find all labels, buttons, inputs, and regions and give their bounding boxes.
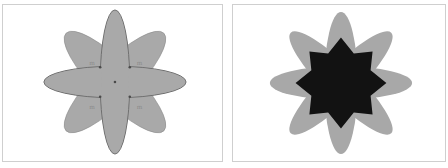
right-panel <box>232 4 446 162</box>
petal-label: m <box>137 60 143 66</box>
center-point <box>114 81 117 84</box>
flower-outline-diagram: m m m m <box>3 5 222 161</box>
anchor-point <box>99 96 102 99</box>
flower-star-diagram <box>233 5 445 161</box>
petal-label: m <box>137 104 143 110</box>
anchor-point <box>99 66 102 69</box>
anchor-point <box>128 66 131 69</box>
left-panel: m m m m <box>2 4 223 162</box>
petal-label: m <box>89 104 95 110</box>
anchor-point <box>128 96 131 99</box>
petal-label: m <box>89 60 95 66</box>
